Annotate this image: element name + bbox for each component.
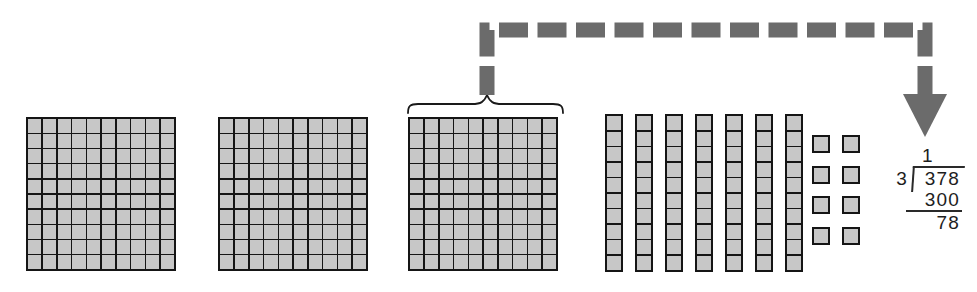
subtrahend: 300 (900, 190, 960, 210)
remainder: 78 (900, 213, 960, 233)
long-division: 1 3 378 300 78 (0, 0, 977, 292)
quotient-digit: 1 (903, 146, 953, 166)
dividend: 378 (900, 169, 960, 189)
scene: 1 3 378 300 78 (0, 0, 977, 292)
